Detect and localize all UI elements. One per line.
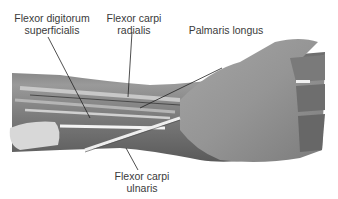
- label-line: superficialis: [12, 24, 92, 36]
- label-line: ulnaris: [112, 182, 172, 194]
- label-flexor-carpi-radialis: Flexor carpi radialis: [104, 12, 164, 36]
- label-line: Flexor digitorum: [12, 12, 92, 24]
- label-flexor-carpi-ulnaris: Flexor carpi ulnaris: [112, 170, 172, 194]
- label-line: Flexor carpi: [104, 12, 164, 24]
- anatomy-figure: Flexor digitorum superficialis Flexor ca…: [0, 0, 338, 199]
- label-line: Flexor carpi: [112, 170, 172, 182]
- label-palmaris-longus: Palmaris longus: [186, 24, 266, 36]
- label-line: radialis: [104, 24, 164, 36]
- label-flexor-digitorum-superficialis: Flexor digitorum superficialis: [12, 12, 92, 36]
- label-line: Palmaris longus: [186, 24, 266, 36]
